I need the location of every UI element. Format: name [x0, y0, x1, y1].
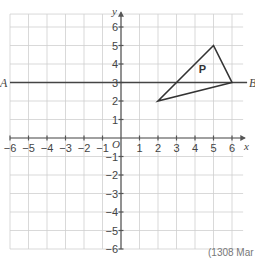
y-tick-label: 6 [112, 21, 118, 33]
grid-lines [10, 14, 243, 249]
origin-label: O [112, 138, 120, 150]
x-tick-label: 3 [173, 142, 179, 154]
label-a: A [0, 76, 8, 90]
y-tick-label: −3 [105, 188, 118, 200]
x-tick-label: 4 [192, 142, 198, 154]
x-tick-label: −3 [59, 142, 72, 154]
y-tick-label: −6 [105, 243, 118, 255]
x-tick-label: 5 [210, 142, 216, 154]
y-axis-label: y [111, 5, 117, 17]
y-tick-label: 5 [112, 40, 118, 52]
x-tick-label: 1 [136, 142, 142, 154]
x-axis-label: x [243, 140, 249, 152]
y-tick-label: 4 [112, 58, 118, 70]
y-tick-label: −5 [105, 225, 118, 237]
x-tick-label: 2 [155, 142, 161, 154]
x-tick-label: −5 [22, 142, 35, 154]
mirror-line-y-equals-3: AB [0, 76, 255, 90]
y-tick-label: 2 [112, 95, 118, 107]
x-tick-label: −2 [78, 142, 91, 154]
coordinate-grid: xyO −6−5−4−3−2−1123456654321−1−2−3−4−5−6… [0, 0, 255, 262]
x-tick-label: −6 [4, 142, 17, 154]
shape-label-p: P [199, 63, 206, 75]
y-tick-label: 1 [112, 114, 118, 126]
x-tick-label: −4 [41, 142, 54, 154]
y-tick-label: −2 [105, 169, 118, 181]
x-tick-label: 6 [229, 142, 235, 154]
label-b: B [249, 76, 255, 90]
y-tick-label: −1 [105, 151, 118, 163]
y-tick-label: −4 [105, 206, 118, 218]
footer-text: (1308 Mar [208, 247, 254, 258]
